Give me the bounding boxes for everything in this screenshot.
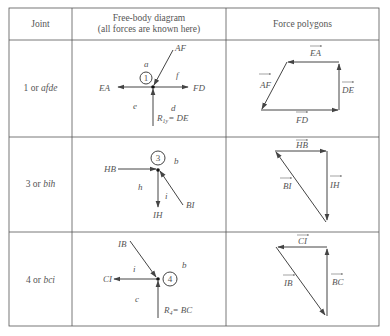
header-fbd-line1: Free-body diagram xyxy=(72,13,226,24)
joint-number: 4 or xyxy=(26,275,43,285)
reaction-label-r4: R4= BC xyxy=(163,305,193,316)
polygon-label-hb: HB xyxy=(295,140,308,150)
space-label-d: d xyxy=(171,103,176,113)
diagram-canvas: 1 a AF f EA FD e d R1y= DE EA AF DE FD 3… xyxy=(0,0,390,336)
space-label-e: e xyxy=(133,101,137,111)
joint-circle-label: 4 xyxy=(168,274,173,284)
force-label-ih: IH xyxy=(152,210,163,220)
space-label-b: b xyxy=(182,260,187,270)
joint-cell-1: 1 or afde xyxy=(9,83,72,93)
joint-letters: bci xyxy=(43,275,55,285)
force-label-ea: EA xyxy=(98,83,110,93)
joint-cell-4: 4 or bci xyxy=(9,275,72,285)
force-polygon-1 xyxy=(261,62,339,110)
polygon-label-ci: CI xyxy=(298,236,308,246)
header-fbd-line2: (all forces are known here) xyxy=(72,24,226,35)
polygon-label-ih: IH xyxy=(329,180,340,190)
space-label-i: i xyxy=(133,264,136,274)
joint-circle-label: 1 xyxy=(144,73,149,83)
force-label-bi: BI xyxy=(186,200,195,210)
polygon-label-ea: EA xyxy=(309,48,321,58)
joint-number: 3 or xyxy=(26,179,43,189)
polygon-label-ib: IB xyxy=(283,278,293,288)
header-joint: Joint xyxy=(9,19,72,30)
polygon-label-bc: BC xyxy=(332,277,344,287)
force-label-af: AF xyxy=(174,43,186,53)
header-polygons: Force polygons xyxy=(226,19,379,30)
space-label-a: a xyxy=(144,59,149,69)
polygon-label-de: DE xyxy=(341,85,354,95)
joint-letters: bih xyxy=(43,179,55,189)
polygon-label-bi: BI xyxy=(283,181,292,191)
space-label-c: c xyxy=(135,294,139,304)
joint-number: 1 or xyxy=(24,83,41,93)
force-label-ci: CI xyxy=(103,274,113,284)
joint-letters: afde xyxy=(41,83,57,93)
header-fbd: Free-body diagram (all forces are known … xyxy=(72,13,226,35)
space-label-f: f xyxy=(176,70,180,80)
joint-cell-3: 3 or bih xyxy=(9,179,72,189)
space-label-i: i xyxy=(165,191,168,201)
force-label-ib: IB xyxy=(117,239,127,249)
force-label-fd: FD xyxy=(192,83,205,93)
joint-circle-label: 3 xyxy=(156,153,161,163)
polygon-label-fd: FD xyxy=(295,115,308,125)
space-label-h: h xyxy=(138,182,143,192)
space-label-b: b xyxy=(174,156,179,166)
polygon-label-af: AF xyxy=(259,80,271,90)
reaction-label-r1y: R1y= DE xyxy=(156,113,189,124)
force-label-hb: HB xyxy=(103,164,116,174)
